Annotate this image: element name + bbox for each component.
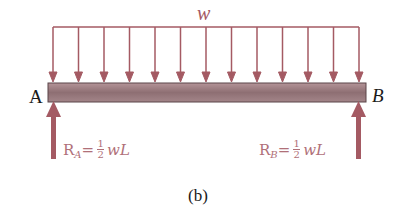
load-arrow-head-icon bbox=[49, 72, 57, 82]
fraction: 1 2 bbox=[293, 139, 300, 160]
load-label-w: w bbox=[197, 2, 210, 25]
reaction-arrow-right bbox=[351, 101, 366, 159]
reaction-expression: wL bbox=[107, 141, 130, 159]
numerator: 1 bbox=[294, 139, 300, 149]
reaction-label-left: R A = 1 2 wL bbox=[63, 139, 130, 160]
reaction-symbol: R bbox=[259, 141, 270, 159]
denominator: 2 bbox=[97, 150, 103, 160]
load-arrow-head-icon bbox=[151, 72, 159, 82]
load-arrow-head-icon bbox=[75, 72, 83, 82]
load-arrow-head-icon bbox=[126, 72, 134, 82]
reaction-subscript: A bbox=[74, 149, 81, 160]
load-arrow-head-icon bbox=[253, 72, 261, 82]
load-arrow-head-icon bbox=[279, 72, 287, 82]
numerator: 1 bbox=[97, 139, 103, 149]
load-arrow-head-icon bbox=[202, 72, 210, 82]
load-arrow-head-icon bbox=[304, 72, 312, 82]
distributed-load bbox=[49, 27, 363, 82]
beam bbox=[48, 83, 366, 102]
fraction: 1 2 bbox=[97, 139, 104, 160]
support-label-a: A bbox=[29, 86, 43, 108]
equals-sign: = bbox=[278, 141, 291, 159]
figure-caption: (b) bbox=[188, 186, 208, 206]
reaction-subscript: B bbox=[270, 149, 277, 160]
reaction-symbol: R bbox=[63, 141, 74, 159]
reaction-arrow-left bbox=[46, 101, 61, 159]
support-label-b: B bbox=[372, 85, 384, 107]
load-arrow-head-icon bbox=[228, 72, 236, 82]
load-arrow-head-icon bbox=[177, 72, 185, 82]
equals-sign: = bbox=[82, 141, 95, 159]
load-arrow-head-icon bbox=[100, 72, 108, 82]
load-arrow-head-icon bbox=[330, 72, 338, 82]
reaction-label-right: R B = 1 2 wL bbox=[259, 139, 326, 160]
reaction-expression: wL bbox=[303, 141, 326, 159]
load-arrow-head-icon bbox=[355, 72, 363, 82]
denominator: 2 bbox=[294, 150, 300, 160]
